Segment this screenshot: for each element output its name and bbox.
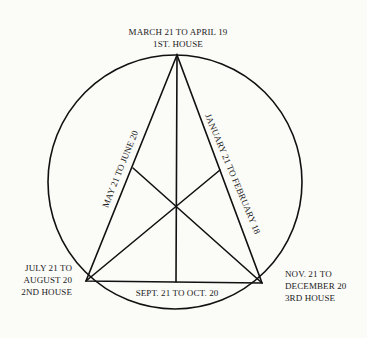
bottom-side-label: SEPT. 21 TO OCT. 20	[136, 288, 219, 298]
outer-circle	[48, 55, 302, 309]
right-label-line2: DECEMBER 20	[285, 281, 347, 291]
right-label-line1: NOV. 21 TO	[285, 269, 332, 279]
house-diagram: MARCH 21 TO APRIL 19 1ST. HOUSE JULY 21 …	[0, 0, 367, 338]
right-side-label: JANUARY 21 TO FEBRUARY 18	[203, 112, 263, 236]
top-label-house: 1ST. HOUSE	[153, 39, 203, 49]
right-label-house: 3RD HOUSE	[285, 293, 336, 303]
left-label-house: 2ND HOUSE	[21, 287, 72, 297]
left-label-line1: JULY 21 TO	[25, 263, 72, 273]
top-label-dates: MARCH 21 TO APRIL 19	[129, 27, 228, 37]
vertical-median-line	[176, 55, 177, 282]
left-label-line2: AUGUST 20	[24, 275, 73, 285]
